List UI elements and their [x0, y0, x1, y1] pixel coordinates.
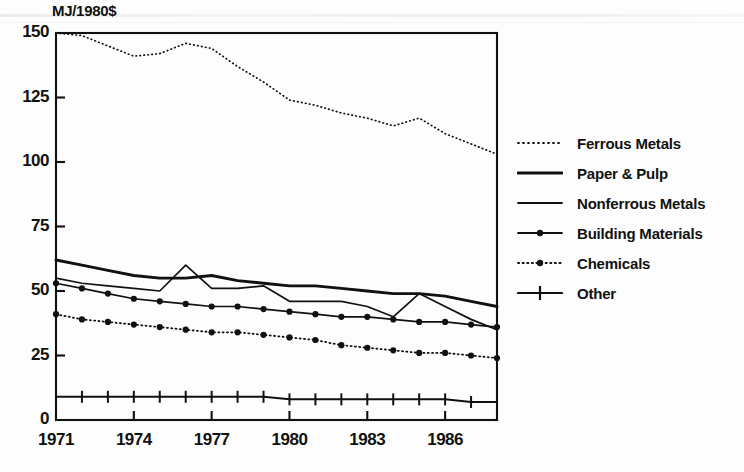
legend-key-icon — [517, 225, 563, 241]
legend-item-paper-pulp: Paper & Pulp — [517, 158, 705, 188]
chart-legend: Ferrous MetalsPaper & PulpNonferrous Met… — [517, 128, 705, 308]
y-tick-label: 100 — [22, 151, 49, 171]
legend-key-icon — [517, 135, 563, 151]
legend-label: Building Materials — [577, 225, 703, 242]
legend-label: Other — [577, 285, 616, 302]
y-tick-label: 150 — [22, 22, 49, 42]
legend-label: Chemicals — [577, 255, 650, 272]
y-tick-label: 50 — [31, 280, 49, 300]
x-tick-label: 1977 — [172, 430, 252, 450]
series-chemicals — [53, 311, 500, 361]
x-tick-label: 1986 — [405, 430, 485, 450]
x-tick-label: 1983 — [327, 430, 407, 450]
legend-item-other: Other — [517, 278, 705, 308]
y-tick-label: 25 — [31, 345, 49, 365]
series-other — [56, 391, 497, 408]
legend-item-ferrous-metals: Ferrous Metals — [517, 128, 705, 158]
legend-key-icon — [517, 285, 563, 301]
series-ferrous-metals — [56, 33, 497, 154]
x-tick-label: 1974 — [94, 430, 174, 450]
figure-caption — [0, 455, 744, 471]
x-tick-label: 1971 — [16, 430, 96, 450]
legend-label: Paper & Pulp — [577, 165, 668, 182]
y-tick-label: 125 — [22, 87, 49, 107]
legend-key-icon — [517, 255, 563, 271]
legend-item-nonferrous-metals: Nonferrous Metals — [517, 188, 705, 218]
series-nonferrous-metals — [56, 265, 497, 330]
chart-figure: MJ/1980$ 0255075100125150 19711974197719… — [0, 0, 744, 472]
x-tick-label: 1980 — [249, 430, 329, 450]
legend-item-building-materials: Building Materials — [517, 218, 705, 248]
legend-label: Ferrous Metals — [577, 135, 681, 152]
legend-label: Nonferrous Metals — [577, 195, 705, 212]
y-tick-label: 0 — [40, 409, 49, 429]
y-tick-label: 75 — [31, 216, 49, 236]
legend-key-icon — [517, 165, 563, 181]
legend-key-icon — [517, 195, 563, 211]
legend-item-chemicals: Chemicals — [517, 248, 705, 278]
